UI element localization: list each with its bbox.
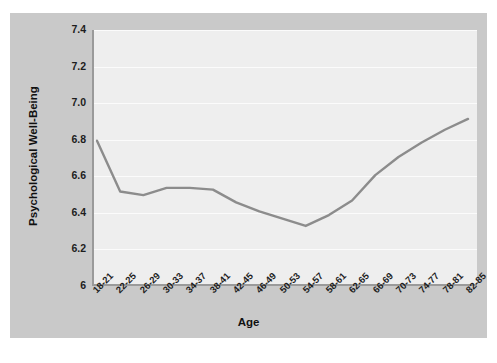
chart-panel: Psychological Well-Being 7.47.27.06.86.6… <box>10 13 487 338</box>
y-tick-label: 7.0 <box>46 97 86 108</box>
y-tick-label: 7.2 <box>46 61 86 72</box>
chart-figure: Psychological Well-Being 7.47.27.06.86.6… <box>0 0 497 363</box>
y-axis-tick-labels: 7.47.27.06.86.66.46.26 <box>38 13 86 338</box>
y-tick-label: 6.8 <box>46 134 86 145</box>
series-polyline <box>97 119 468 226</box>
y-tick-label: 6.6 <box>46 170 86 181</box>
y-tick-label: 6 <box>46 280 86 291</box>
y-tick-label: 6.4 <box>46 207 86 218</box>
plot-area <box>92 30 477 286</box>
y-tick-label: 7.4 <box>46 24 86 35</box>
series-line-chart <box>94 30 477 284</box>
x-axis-title: Age <box>10 316 487 328</box>
y-tick-label: 6.2 <box>46 243 86 254</box>
